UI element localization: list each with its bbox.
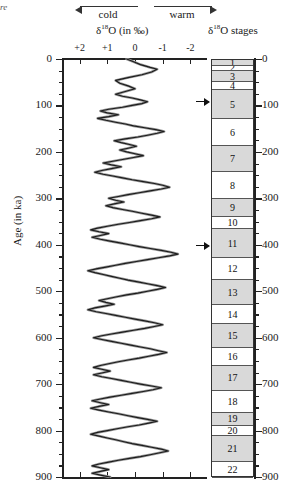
y-tick-right (255, 407, 259, 408)
warm-label: warm (152, 8, 212, 20)
stages-title-text: O stages (220, 24, 258, 36)
y-tick-right (255, 373, 259, 374)
stage-cell-7[interactable]: 7 (212, 146, 253, 172)
y-tick-right (255, 164, 259, 165)
y-tick-right (255, 454, 259, 455)
x-tick-label: -1 (152, 42, 174, 53)
y-tick-right (255, 117, 259, 118)
stage-pointer-arrow (196, 101, 209, 103)
cold-arrow-line (80, 6, 138, 7)
y-tick-left (56, 431, 63, 432)
y-tick-left (56, 59, 63, 60)
y-tick-label-left: 200 (18, 145, 52, 157)
y-tick-right (255, 105, 262, 106)
y-tick-left (56, 338, 63, 339)
y-tick-label-right: 700 (262, 377, 296, 389)
stage-cell-18[interactable]: 18 (212, 391, 253, 413)
y-tick-left (56, 198, 63, 199)
y-tick-label-right: 100 (262, 98, 296, 110)
stage-cell-9[interactable]: 9 (212, 199, 253, 216)
corner-text-fragment: re (0, 2, 7, 12)
y-tick-label-left: 0 (18, 52, 52, 64)
stage-cell-11[interactable]: 11 (212, 229, 253, 258)
y-tick-label-right: 900 (262, 470, 296, 482)
y-tick-right (255, 442, 259, 443)
figure-root: re cold warm δ18O (in ‰) δ18O stages Age… (0, 0, 301, 497)
y-tick-left (56, 105, 63, 106)
y-tick-right (255, 338, 262, 339)
delta-o18-curve (63, 58, 207, 478)
curve-line (88, 59, 178, 477)
y-tick-right (255, 431, 262, 432)
y-tick-label-left: 400 (18, 238, 52, 250)
y-tick-label-left: 600 (18, 331, 52, 343)
stage-cell-16[interactable]: 16 (212, 348, 253, 366)
y-tick-right (255, 291, 262, 292)
stage-cell-14[interactable]: 14 (212, 305, 253, 324)
stage-cell-10[interactable]: 10 (212, 217, 253, 230)
stage-cell-20[interactable]: 20 (212, 426, 253, 437)
y-tick-right (255, 129, 259, 130)
y-tick-left (56, 384, 63, 385)
stage-cell-21[interactable]: 21 (212, 436, 253, 462)
stage-cell-8[interactable]: 8 (212, 172, 253, 199)
stage-cell-22[interactable]: 22 (212, 462, 253, 478)
y-tick-right (255, 314, 259, 315)
y-tick-left (56, 152, 63, 153)
y-tick-right (255, 419, 259, 420)
y-tick-right (255, 198, 262, 199)
y-tick-right (255, 71, 259, 72)
y-tick-label-right: 800 (262, 424, 296, 436)
y-tick-label-left: 800 (18, 424, 52, 436)
x-tick-label: +1 (96, 42, 118, 53)
y-tick-label-left: 100 (18, 98, 52, 110)
stage-cell-6[interactable]: 6 (212, 119, 253, 146)
y-tick-right (255, 175, 259, 176)
y-tick-left (56, 291, 63, 292)
y-tick-right (255, 303, 259, 304)
y-tick-label-right: 300 (262, 191, 296, 203)
isotope-stage-column: 12345678910111213141516171819202122 (211, 59, 254, 477)
y-tick-right (255, 59, 262, 60)
stage-cell-15[interactable]: 15 (212, 324, 253, 349)
stage-cell-17[interactable]: 17 (212, 366, 253, 391)
y-tick-right (255, 152, 262, 153)
y-tick-right (255, 280, 259, 281)
y-tick-right (255, 94, 259, 95)
y-tick-right (255, 233, 259, 234)
y-tick-right (255, 210, 259, 211)
temperature-direction-arrows: cold warm (78, 2, 214, 16)
y-tick-right (255, 140, 259, 141)
y-tick-right (255, 82, 259, 83)
y-tick-label-right: 400 (262, 238, 296, 250)
delta-units: O (in ‰) (108, 24, 148, 36)
stage-cell-4[interactable]: 4 (212, 82, 253, 89)
y-tick-right (255, 361, 259, 362)
y-tick-right (255, 384, 262, 385)
y-tick-right (255, 477, 262, 478)
stage-cell-12[interactable]: 12 (212, 258, 253, 280)
stage-cell-13[interactable]: 13 (212, 280, 253, 305)
y-tick-right (255, 245, 262, 246)
cold-label: cold (78, 8, 138, 20)
stage-cell-19[interactable]: 19 (212, 413, 253, 426)
y-tick-label-right: 600 (262, 331, 296, 343)
y-tick-right (255, 187, 259, 188)
y-tick-right (255, 326, 259, 327)
x-tick-label: -2 (179, 42, 201, 53)
y-tick-right (255, 349, 259, 350)
y-tick-right (255, 465, 259, 466)
x-tick-label: 0 (124, 42, 146, 53)
stage-cell-5[interactable]: 5 (212, 90, 253, 120)
y-tick-right (255, 396, 259, 397)
stage-pointer-arrow (196, 245, 209, 247)
y-tick-label-left: 700 (18, 377, 52, 389)
y-tick-right (255, 222, 259, 223)
y-tick-label-right: 200 (262, 145, 296, 157)
y-tick-label-left: 500 (18, 284, 52, 296)
stage-cell-3[interactable]: 3 (212, 71, 253, 82)
y-tick-label-right: 500 (262, 284, 296, 296)
y-tick-label-left: 300 (18, 191, 52, 203)
y-tick-label-right: 0 (262, 52, 296, 64)
y-tick-left (56, 477, 63, 478)
